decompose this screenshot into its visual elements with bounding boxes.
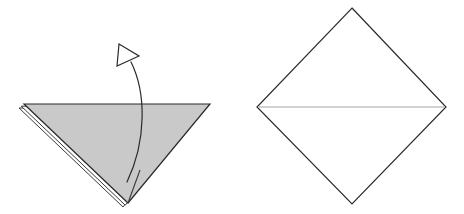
origami-diagram <box>0 0 464 214</box>
arrow-head-icon <box>117 44 139 66</box>
diagram-canvas <box>0 0 464 214</box>
unfolded-diamond-panel <box>257 8 446 204</box>
diamond-face <box>257 8 446 204</box>
folded-triangle-panel <box>19 104 210 207</box>
triangle-face <box>24 104 210 203</box>
